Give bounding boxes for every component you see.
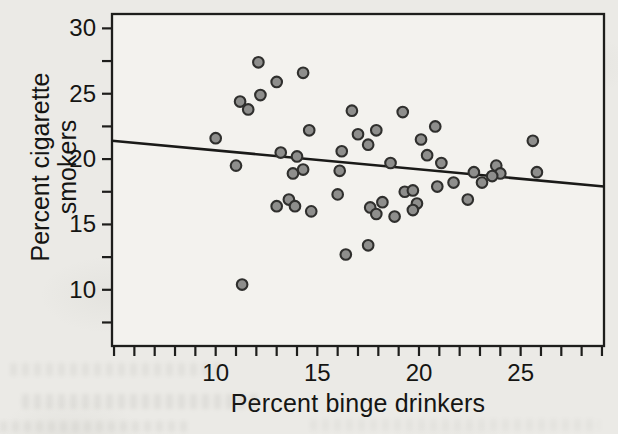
scatter-point [377, 197, 388, 208]
scatter-point [389, 211, 400, 222]
scatter-point [477, 177, 488, 188]
y-tick-label: 10 [69, 276, 96, 303]
scatter-point [231, 160, 242, 171]
scatter-point [255, 90, 266, 101]
y-axis-title-line1: Percent cigarette [26, 73, 54, 262]
scatter-point [353, 129, 364, 140]
scatter-point [341, 249, 352, 260]
scatter-point [371, 125, 382, 136]
scatter-point [334, 166, 345, 177]
x-tick-label: 15 [304, 359, 331, 386]
scatter-point [532, 167, 543, 178]
scatter-point [436, 158, 447, 169]
scatter-point [253, 57, 264, 68]
scatter-point [430, 121, 441, 132]
scan-bleed-artifact [22, 394, 262, 409]
scatter-point [332, 189, 343, 200]
scan-bleed-artifact [0, 421, 190, 432]
x-tick-label: 25 [507, 359, 534, 386]
scatter-point [432, 181, 443, 192]
scatter-point [290, 201, 301, 212]
scatter-point [385, 158, 396, 169]
scatter-point [416, 134, 427, 145]
scatter-point [363, 139, 374, 150]
scatter-point [487, 171, 498, 182]
scatter-point [288, 168, 299, 179]
x-axis-title: Percent binge drinkers [231, 389, 486, 418]
scatter-point [237, 279, 248, 290]
scatter-point [304, 125, 315, 136]
scatter-point [422, 150, 433, 161]
scatter-point [336, 146, 347, 157]
scatter-point [408, 185, 419, 196]
y-tick-label: 30 [69, 14, 96, 41]
scan-bleed-artifact [310, 419, 600, 431]
scatter-point [292, 151, 303, 162]
scatter-point [243, 104, 254, 115]
scatter-point [408, 205, 419, 216]
scatter-point [298, 68, 309, 79]
scatter-point [306, 206, 317, 217]
scatter-point [462, 194, 473, 205]
scatter-point [397, 107, 408, 118]
scatter-point [271, 201, 282, 212]
scatter-point [275, 147, 286, 158]
scatter-point [371, 209, 382, 220]
scatter-point [469, 167, 480, 178]
scatter-point [528, 135, 539, 146]
scan-bleed-artifact [10, 363, 220, 376]
scatter-point [347, 105, 358, 116]
scatter-point [298, 164, 309, 175]
scatter-point [210, 133, 221, 144]
scatter-point [271, 77, 282, 88]
scanned-textbook-page: 101520251015202530 Percent cigarette smo… [0, 0, 618, 434]
scatter-point [448, 177, 459, 188]
scatter-point [363, 240, 374, 251]
x-tick-label: 20 [406, 359, 433, 386]
y-axis-title-line2: smokers [53, 120, 81, 214]
y-axis-title: Percent cigarette smokers [27, 73, 81, 262]
